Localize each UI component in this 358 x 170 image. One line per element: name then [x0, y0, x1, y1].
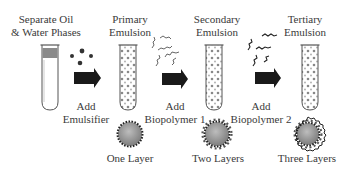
- arrow-right-icon: [162, 69, 188, 89]
- droplet-one-layer-icon: [118, 122, 143, 147]
- emulsion-diagram: [0, 0, 358, 170]
- test-tube-tertiary-emulsion-icon: [301, 45, 320, 110]
- droplet-three-layers-icon: [295, 117, 327, 151]
- emulsifier-particles-icon: [70, 49, 93, 66]
- test-tube-separate-phases-icon: [41, 45, 60, 110]
- droplet-two-layers-icon: [203, 120, 232, 149]
- arrow-right-icon: [74, 68, 101, 88]
- biopolymer-chains-icon: [248, 34, 277, 66]
- test-tube-primary-emulsion-icon: [119, 45, 138, 110]
- test-tube-secondary-emulsion-icon: [205, 45, 224, 110]
- arrow-right-icon: [255, 68, 281, 88]
- biopolymer-chains-icon: [152, 36, 179, 66]
